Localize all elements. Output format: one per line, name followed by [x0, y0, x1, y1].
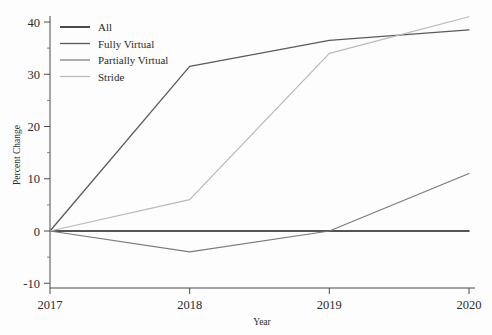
y-axis: -10010203040: [23, 16, 50, 291]
x-tick-group: 2017201820192020: [38, 288, 482, 312]
legend-label-partially-virtual: Partially Virtual: [98, 54, 168, 66]
y-tick-label: -10: [23, 277, 40, 291]
y-tick-label: 30: [28, 68, 41, 82]
legend-label-all: All: [98, 21, 112, 33]
y-tick-label: 40: [28, 16, 41, 30]
y-tick-label: 0: [34, 225, 40, 239]
legend-label-stride: Stride: [98, 71, 124, 83]
x-axis-title: Year: [253, 317, 271, 327]
series-line-partially-virtual: [50, 174, 469, 252]
y-tick-label: 10: [28, 172, 41, 186]
y-axis-title: Percent Change: [12, 125, 22, 185]
legend-label-fully-virtual: Fully Virtual: [98, 38, 154, 50]
x-tick-label: 2017: [38, 298, 63, 312]
x-axis: 2017201820192020: [38, 288, 482, 312]
chart-legend: AllFully VirtualPartially VirtualStride: [60, 21, 168, 83]
x-tick-label: 2020: [457, 298, 482, 312]
line-chart: -10010203040 2017201820192020 Percent Ch…: [0, 0, 492, 335]
y-tick-group: -10010203040: [23, 16, 50, 291]
x-tick-label: 2019: [317, 298, 342, 312]
y-tick-label: 20: [28, 120, 41, 134]
series-group: [50, 17, 469, 252]
chart-canvas: -10010203040 2017201820192020 Percent Ch…: [0, 0, 492, 335]
x-tick-label: 2018: [177, 298, 202, 312]
